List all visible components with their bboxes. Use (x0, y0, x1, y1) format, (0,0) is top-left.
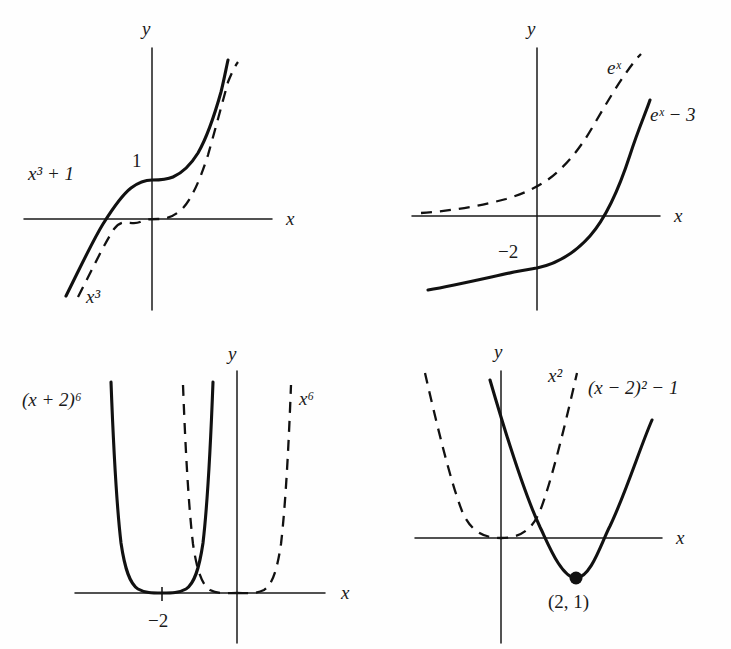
panel-exponential-shift-down: y x −2 eˣ − 3 eˣ (366, 0, 731, 325)
y-axis-label: y (142, 18, 150, 40)
x-axis-label: x (341, 582, 349, 604)
curve-x-to-the-sixth-left (183, 385, 237, 593)
panel-cubic-shift-up: y x 1 x³ + 1 x³ (0, 0, 366, 325)
solid-curve-label: eˣ − 3 (650, 104, 696, 126)
y-axis-label: y (527, 18, 535, 40)
y-intercept-label: −2 (498, 241, 518, 263)
y-axis-label: y (228, 343, 236, 365)
dashed-curve-label: x³ (86, 286, 100, 308)
curve-x-cubed-plus-one (66, 60, 228, 296)
dashed-curve-label: eˣ (607, 57, 621, 79)
panel-parabola-shift-right-down: y x (2, 1) (x − 2)² − 1 x² (366, 325, 731, 649)
panel-exponential-plot (366, 0, 731, 325)
x-axis-label: x (674, 205, 682, 227)
solid-curve-label: (x − 2)² − 1 (588, 377, 678, 399)
vertex-dot (570, 572, 583, 585)
x-axis-label: x (676, 527, 684, 549)
dashed-curve-label: x² (548, 365, 562, 387)
x-axis-label: x (286, 208, 294, 230)
curve-x-to-the-sixth-right (237, 385, 291, 593)
curve-e-to-the-x-minus-three (428, 100, 650, 290)
vertex-point-label: (2, 1) (548, 591, 589, 613)
panel-sextic-plot (0, 325, 366, 649)
y-intercept-label: 1 (132, 150, 142, 172)
curve-x-plus-two-to-the-sixth (111, 382, 213, 593)
solid-curve-label: (x + 2)⁶ (22, 389, 82, 411)
vertex-tick-label: −2 (148, 610, 168, 632)
figure-canvas: y x 1 x³ + 1 x³ y x −2 eˣ − 3 eˣ (0, 0, 731, 649)
dashed-curve-label: x⁶ (299, 388, 314, 410)
curve-x-minus-two-squared-minus-one (490, 380, 652, 578)
panel-sextic-shift-left: y x −2 (x + 2)⁶ x⁶ (0, 325, 366, 649)
solid-curve-label: x³ + 1 (28, 163, 74, 185)
y-axis-label: y (494, 341, 502, 363)
